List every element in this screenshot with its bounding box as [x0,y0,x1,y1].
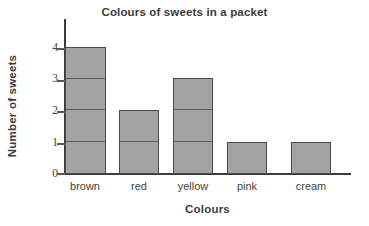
bar-chart: Colours of sweets in a packet Number of … [0,0,369,226]
bar-unit-divider [66,141,105,142]
bar-unit-divider [174,109,212,110]
bar-unit-divider [66,109,105,110]
x-tick-label-cream: cream [267,180,355,192]
chart-title: Colours of sweets in a packet [0,6,369,18]
bar-unit-divider [174,141,212,142]
y-axis-label-container: Number of sweets [0,32,24,180]
x-axis-label: Colours [64,203,351,215]
bar-brown[interactable] [65,47,106,174]
y-axis-label: Number of sweets [6,55,18,157]
y-tick-label-4: 4 [42,41,58,53]
y-tick-label-1: 1 [42,136,58,148]
y-tick-label-3: 3 [42,72,58,84]
y-tick-label-2: 2 [42,104,58,116]
bar-red[interactable] [119,110,159,174]
y-tick-mark-0 [57,173,65,175]
bar-unit-divider [120,141,158,142]
bar-cream[interactable] [291,142,331,174]
y-tick-mark-1 [57,143,65,145]
plot-area [64,19,351,175]
y-tick-mark-4 [57,48,65,50]
bar-unit-divider [66,78,105,79]
bar-yellow[interactable] [173,78,213,174]
y-tick-mark-2 [57,111,65,113]
y-tick-mark-3 [57,80,65,82]
y-tick-label-0: 0 [42,167,58,179]
bar-pink[interactable] [227,142,267,174]
